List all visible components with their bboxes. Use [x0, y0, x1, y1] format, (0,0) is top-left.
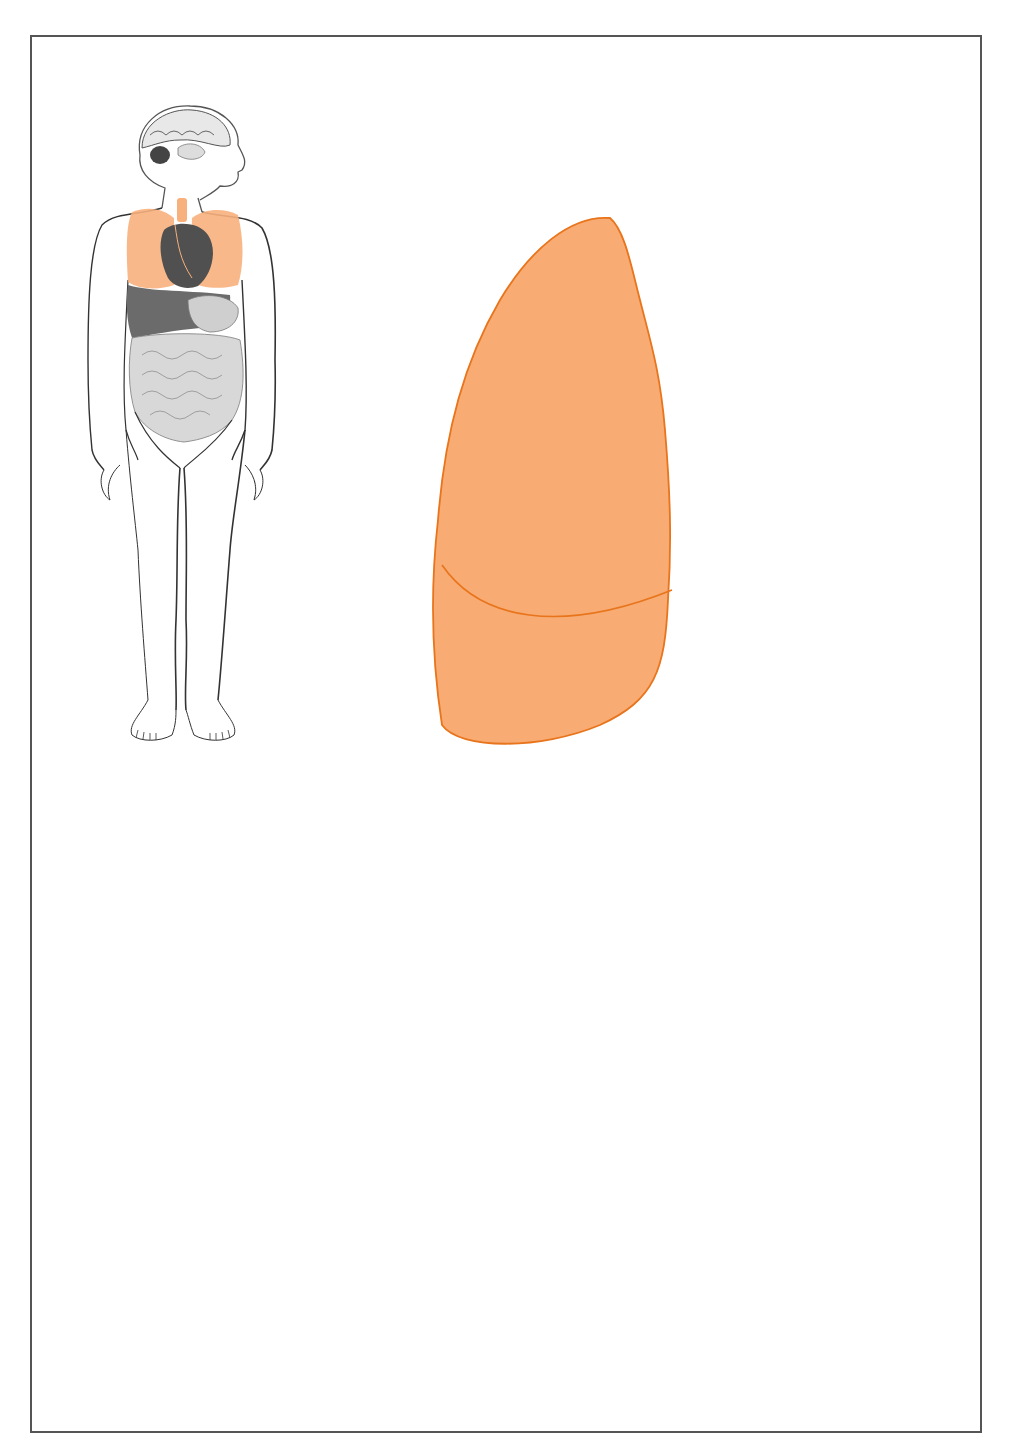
- body-anatomy-illustration: [80, 100, 300, 760]
- brain-icon: [139, 106, 244, 212]
- page-title-fragment: [0, 0, 1019, 8]
- body-figure-svg: [80, 100, 300, 760]
- lungs-svg: [420, 100, 960, 770]
- lungs-airway-illustration: [420, 100, 960, 770]
